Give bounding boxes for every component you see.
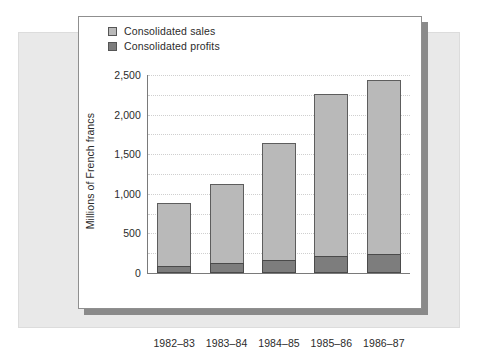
x-tick-label: 1986–87 bbox=[352, 337, 416, 349]
plot-area: 1982–831983–841984–851985–861986–87 bbox=[147, 75, 410, 274]
bar-segment-sales[interactable] bbox=[262, 143, 296, 273]
bar-segment-sales[interactable] bbox=[210, 184, 244, 273]
bar-segment-profits[interactable] bbox=[157, 266, 191, 273]
bar-group[interactable] bbox=[314, 75, 348, 273]
bar-segment-profits[interactable] bbox=[314, 256, 348, 273]
bar-segment-profits[interactable] bbox=[210, 263, 244, 273]
bar-segment-profits[interactable] bbox=[367, 254, 401, 273]
y-axis-tick-labels: 05001,0001,5002,0002,500 bbox=[93, 75, 141, 273]
bar-segment-profits[interactable] bbox=[262, 260, 296, 273]
bar-group[interactable] bbox=[157, 75, 191, 273]
bar-group[interactable] bbox=[367, 75, 401, 273]
y-tick-label: 0 bbox=[95, 267, 141, 279]
bar-segment-sales[interactable] bbox=[157, 203, 191, 273]
y-tick-label: 1,000 bbox=[95, 188, 141, 200]
plot-wrapper: Millions of French francs 05001,0001,500… bbox=[79, 17, 423, 310]
y-tick-label: 2,500 bbox=[95, 69, 141, 81]
chart-card: Consolidated sales Consolidated profits … bbox=[78, 16, 422, 309]
y-tick-label: 500 bbox=[95, 227, 141, 239]
y-tick-label: 2,000 bbox=[95, 109, 141, 121]
y-tick-label: 1,500 bbox=[95, 148, 141, 160]
bar-segment-sales[interactable] bbox=[367, 80, 401, 273]
bar-group[interactable] bbox=[210, 75, 244, 273]
bar-segment-sales[interactable] bbox=[314, 94, 348, 273]
bar-group[interactable] bbox=[262, 75, 296, 273]
